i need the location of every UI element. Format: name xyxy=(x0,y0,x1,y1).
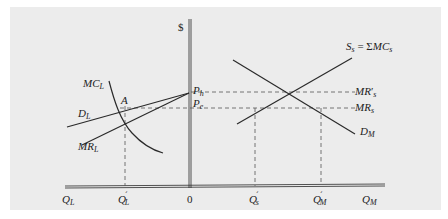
d-m-label: DM xyxy=(359,125,376,139)
economics-diagram: $ Ph Pe MCL DL MRL A Ss = ΣMCs MR′s MRs … xyxy=(0,0,448,219)
demand-m-curve xyxy=(233,60,355,134)
ql-prime-label: Q´L xyxy=(118,191,130,207)
axes xyxy=(65,19,385,188)
dashed-guides xyxy=(120,92,355,186)
dollar-axis-label: $ xyxy=(178,21,184,33)
horizontal-axis xyxy=(65,184,385,186)
ql-axis-label: QL xyxy=(62,193,75,207)
supply-s-curve xyxy=(237,58,352,124)
qm-prime-label: Q´M xyxy=(313,191,328,207)
origin-label: 0 xyxy=(187,193,193,205)
qs-prime-label: Q´s xyxy=(249,191,259,207)
qm-axis-label: QM xyxy=(362,193,378,207)
point-a-label: A xyxy=(120,94,128,106)
mc-l-curve xyxy=(109,81,163,153)
right-market-curves xyxy=(233,58,355,134)
price-pe-label: Pe xyxy=(192,97,204,111)
price-ph-label: Ph xyxy=(192,84,204,98)
supply-s-label: Ss = ΣMCs xyxy=(346,40,392,54)
mc-l-label: MCL xyxy=(82,77,105,91)
mr-l-label: MRL xyxy=(77,140,99,154)
d-l-label: DL xyxy=(77,107,91,121)
mr-s-label: MRs xyxy=(354,101,374,115)
mr-prime-s-label: MR′s xyxy=(354,85,376,99)
